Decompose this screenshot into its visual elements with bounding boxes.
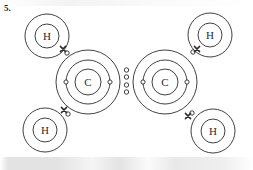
bond-bond-c-left-h-top-left [60, 46, 69, 55]
question-number: 5. [4, 4, 11, 13]
bond-electron-circle-bond-c-c-3 [124, 90, 128, 94]
bond-electron-circle-bond-c-c-2 [124, 83, 128, 87]
atom-carbon-left: C [56, 50, 120, 114]
atom-symbol-h: H [43, 30, 51, 42]
shell-electron-carbon-right-0 [141, 80, 145, 84]
bond-electron-circle-bond-c-c-1 [124, 75, 128, 79]
bond-electron-cross-bond-c-right-h-bottom-right-1 [185, 113, 190, 118]
atom-carbon-right: C [133, 50, 197, 114]
bonds-layer [60, 46, 199, 118]
bond-electron-circle-bond-c-c-0 [124, 68, 128, 72]
shell-electron-carbon-left-1 [108, 80, 112, 84]
atom-symbol-c: C [161, 76, 168, 88]
bohr-model-svg: CCHHHH [0, 0, 253, 170]
atom-hydrogen-bottom-left: H [23, 108, 67, 152]
shell-electron-carbon-right-1 [185, 80, 189, 84]
atom-symbol-h: H [206, 29, 214, 41]
atom-symbol-h: H [41, 124, 49, 136]
shell-electron-carbon-left-0 [64, 80, 68, 84]
atom-symbol-c: C [84, 76, 91, 88]
atom-hydrogen-bottom-right: H [191, 109, 235, 153]
diagram-canvas: CCHHHH [0, 0, 253, 170]
bond-electron-cross-bond-c-left-h-bottom-left-1 [61, 107, 66, 112]
bond-bond-c-left-h-bottom-left [61, 107, 70, 116]
atom-symbol-h: H [209, 125, 217, 137]
atom-hydrogen-top-left: H [25, 14, 69, 58]
bond-bond-c-right-h-bottom-right [185, 111, 194, 119]
atoms-layer: CCHHHH [23, 13, 235, 153]
bond-electron-cross-bond-c-right-h-top-right-1 [194, 46, 199, 51]
bond-bond-c-c [124, 68, 128, 94]
